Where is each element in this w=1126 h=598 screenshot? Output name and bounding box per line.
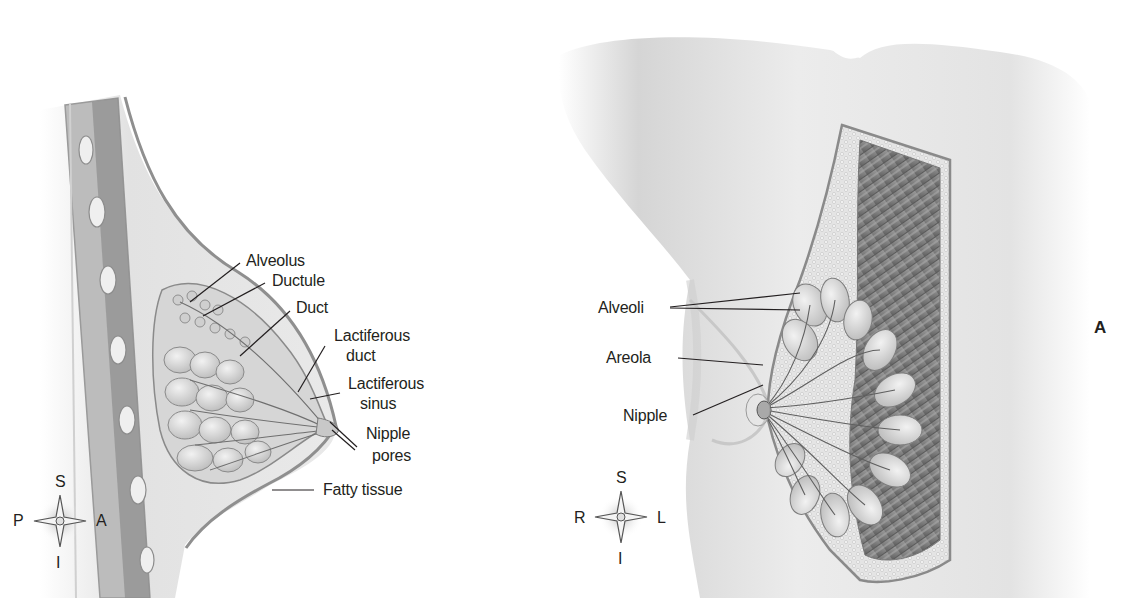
panel-label: A bbox=[1094, 318, 1106, 338]
leader-nipple-pores-2 bbox=[332, 430, 355, 450]
compass-left-superior: S bbox=[55, 474, 66, 490]
illustration-canvas bbox=[0, 0, 1126, 598]
label-nipple-pores-line1: Nipple bbox=[366, 425, 410, 443]
label-alveoli: Alveoli bbox=[598, 299, 644, 317]
label-ductule: Ductule bbox=[272, 272, 325, 290]
sagittal-section bbox=[40, 95, 338, 598]
compass-right-right: R bbox=[574, 510, 586, 526]
compass-left-inferior: I bbox=[56, 555, 60, 571]
label-nipple: Nipple bbox=[623, 407, 667, 425]
label-lactiferous-sinus-line1: Lactiferous bbox=[348, 375, 424, 393]
label-duct: Duct bbox=[296, 299, 328, 317]
label-lactiferous-sinus-line2: sinus bbox=[360, 395, 396, 413]
compass-right-left: L bbox=[657, 510, 666, 526]
label-areola: Areola bbox=[606, 349, 651, 367]
anatomy-figure: Alveolus Ductule Duct Lactiferous duct L… bbox=[0, 0, 1126, 598]
label-lactiferous-duct-line2: duct bbox=[346, 347, 375, 365]
compass-rose-right bbox=[595, 491, 647, 543]
compass-left-anterior: A bbox=[96, 513, 107, 529]
label-fatty-tissue: Fatty tissue bbox=[323, 481, 402, 499]
compass-left-posterior: P bbox=[13, 513, 24, 529]
compass-right-superior: S bbox=[616, 470, 627, 486]
label-lactiferous-duct-line1: Lactiferous bbox=[334, 327, 410, 345]
compass-right-inferior: I bbox=[618, 551, 622, 567]
label-alveolus: Alveolus bbox=[246, 252, 305, 270]
label-nipple-pores-line2: pores bbox=[372, 447, 411, 465]
